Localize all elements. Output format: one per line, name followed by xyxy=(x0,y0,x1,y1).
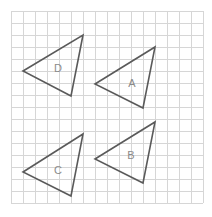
triangle-a: A xyxy=(95,47,155,108)
triangle-c-label: C xyxy=(54,164,62,176)
grid-paper xyxy=(11,11,204,204)
triangle-d: D xyxy=(23,35,83,96)
triangle-a-shape xyxy=(95,47,155,108)
triangle-d-shape xyxy=(23,35,83,96)
triangle-b-label: B xyxy=(127,149,134,161)
triangle-grid-diagram: D A C B xyxy=(0,0,212,217)
triangle-d-label: D xyxy=(54,62,62,74)
triangle-a-label: A xyxy=(128,77,136,89)
